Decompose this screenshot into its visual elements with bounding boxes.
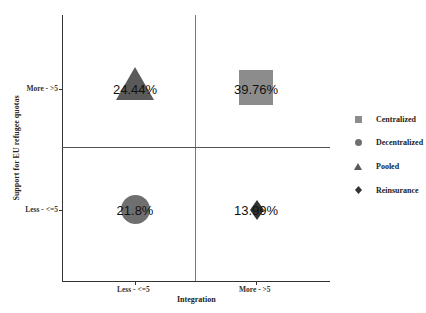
- legend-item-reinsurance: Reinsurance: [352, 183, 419, 197]
- circle-icon: [352, 136, 364, 148]
- legend-label-centralized: Centralized: [376, 115, 416, 124]
- triangle-icon: [352, 160, 364, 172]
- y-axis-title: Support for EU refugee quotas: [12, 95, 21, 200]
- y-tick-more: [59, 89, 62, 90]
- legend-label-decentralized: Decentralized: [376, 138, 423, 147]
- legend-item-centralized: Centralized: [352, 112, 416, 126]
- y-tick-label-less: Less - <=5: [25, 205, 58, 214]
- x-axis-title: Integration: [177, 295, 216, 304]
- legend-label-pooled: Pooled: [376, 162, 399, 171]
- pooled-value-label: 24.44%: [113, 82, 157, 97]
- y-tick-label-more: More - >5: [26, 84, 58, 93]
- vertical-divider: [195, 15, 196, 281]
- diamond-icon: [352, 184, 364, 196]
- legend-item-pooled: Pooled: [352, 159, 399, 173]
- x-tick-label-less: Less - <=5: [117, 285, 150, 294]
- legend-item-decentralized: Decentralized: [352, 135, 423, 149]
- x-axis-line: [62, 281, 330, 282]
- y-tick-less: [59, 210, 62, 211]
- centralized-value-label: 39.76%: [234, 82, 278, 97]
- square-icon: [352, 113, 364, 125]
- legend-label-reinsurance: Reinsurance: [376, 186, 419, 195]
- y-axis-line: [62, 15, 63, 282]
- horizontal-divider: [62, 147, 330, 148]
- x-tick-label-more: More - >5: [239, 285, 271, 294]
- decentralized-value-label: 21.8%: [117, 203, 154, 218]
- reinsurance-value-label: 13.99%: [234, 203, 278, 218]
